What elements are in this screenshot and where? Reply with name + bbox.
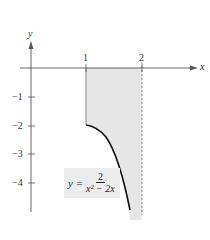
x-tick-label-2: 2 [139,53,144,63]
equation-lhs: y = [68,177,83,189]
equation-denominator: x² − 2x [86,183,115,195]
y-axis-arrow-icon [29,41,34,49]
equation-label: y = 2 x² − 2x [68,171,115,195]
y-tick-label-m3: −3 [12,149,23,159]
x-tick-label-1: 1 [83,53,88,63]
y-tick-label-m1: −1 [12,92,23,102]
y-tick-label-m4: −4 [12,178,23,188]
equation-fraction: 2 x² − 2x [86,171,115,195]
equation-numerator: 2 [96,171,105,183]
y-axis-label: y [28,29,32,39]
x-axis-arrow-icon [190,66,198,71]
x-axis-label: x [200,62,204,72]
y-tick-label-m2: −2 [12,121,23,131]
